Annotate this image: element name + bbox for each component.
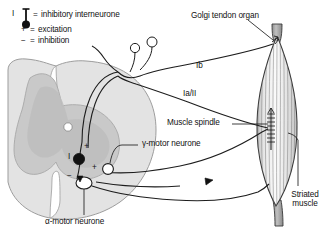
tract-label-ia-ii: Ia/II bbox=[183, 90, 196, 99]
sign-excitation-to-alpha-motor: + bbox=[92, 164, 97, 173]
legend-equals-inhibitory: = bbox=[33, 11, 38, 20]
dorsal-root-ganglion-cells bbox=[130, 37, 157, 53]
callout-golgi-tendon-organ: Golgi tendon organ bbox=[191, 12, 259, 21]
interneurone-marker-label: I bbox=[68, 153, 70, 162]
callout-alpha-motor-neurone: α-motor neurone bbox=[45, 218, 104, 227]
tract-label-ib: Ib bbox=[196, 62, 203, 71]
leader-golgi bbox=[248, 20, 273, 40]
figure-canvas: I = inhibitory interneurone + = excitati… bbox=[0, 0, 330, 240]
legend-equals-inhibition: = bbox=[30, 37, 35, 46]
legend-equals-excitation: = bbox=[30, 26, 35, 35]
legend-label-excitation: excitation bbox=[38, 26, 72, 35]
legend-symbol-inhibitory: I bbox=[12, 10, 14, 19]
gamma-motor-neurone-soma bbox=[103, 164, 114, 175]
legend-label-inhibitory-interneurone: inhibitory interneurone bbox=[41, 11, 120, 20]
excitatory-terminal-muscle bbox=[205, 178, 213, 185]
callout-gamma-motor-neurone: γ-motor neurone bbox=[142, 140, 201, 149]
drg-soma-ia bbox=[130, 43, 139, 52]
drg-soma-ib bbox=[147, 37, 157, 47]
callout-striated-muscle-line2: muscle bbox=[292, 199, 317, 208]
legend-symbol-inhibition: − bbox=[21, 37, 26, 46]
central-canal bbox=[64, 123, 72, 131]
callout-striated-muscle-line1: Striated bbox=[291, 190, 318, 199]
sign-inhibition-to-alpha-motor: − bbox=[67, 172, 72, 181]
legend-symbol-excitation: + bbox=[21, 26, 26, 35]
callout-striated-muscle: Striated muscle bbox=[283, 190, 327, 208]
legend-label-inhibition: inhibition bbox=[38, 37, 69, 46]
inhibitory-interneurone-soma bbox=[73, 153, 84, 164]
sign-excitation-to-interneurone: + bbox=[84, 143, 89, 152]
callout-muscle-spindle: Muscle spindle bbox=[167, 119, 220, 128]
